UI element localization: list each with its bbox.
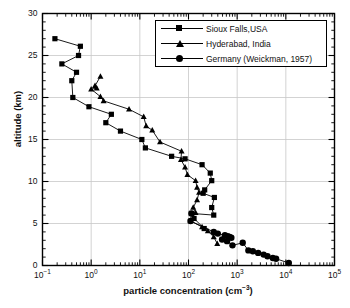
y-tick-label: 25 [18, 50, 38, 60]
series-2 [187, 210, 292, 266]
x-tick-label: 102 [174, 270, 204, 280]
x-tick-label: 101 [125, 270, 155, 280]
y-tick-label: 15 [18, 134, 38, 144]
x-axis-label: particle concentration (cm−3) [42, 285, 334, 296]
legend-item-hyderabad: Hyderabad, India [156, 36, 326, 51]
chart-figure: altitude (km) particle concentration (cm… [0, 0, 350, 308]
y-tick-label: 20 [18, 92, 38, 102]
legend-label: Sioux Falls,USA [203, 24, 267, 34]
legend-marker-circle-icon [161, 52, 203, 66]
y-tick-label: 5 [18, 218, 38, 228]
x-tick-label: 105 [320, 270, 350, 280]
legend-label: Hyderabad, India [203, 39, 271, 49]
series-1 [88, 73, 220, 246]
x-tick-label: 100 [76, 270, 106, 280]
chart-legend: Sioux Falls,USA Hyderabad, India Germany… [155, 20, 327, 67]
x-tick-label: 10−1 [28, 270, 58, 280]
y-tick-label: 10 [18, 176, 38, 186]
legend-marker-triangle-icon [161, 37, 203, 51]
legend-item-germany: Germany (Weickman, 1957) [156, 51, 326, 66]
y-axis-label: altitude (km) [12, 69, 26, 169]
legend-marker-square-icon [161, 22, 203, 36]
y-tick-label: 0 [18, 260, 38, 270]
x-tick-label: 103 [222, 270, 252, 280]
y-tick-label: 30 [18, 8, 38, 18]
x-tick-label: 104 [271, 270, 301, 280]
legend-label: Germany (Weickman, 1957) [203, 54, 312, 64]
legend-item-sioux-falls: Sioux Falls,USA [156, 21, 326, 36]
